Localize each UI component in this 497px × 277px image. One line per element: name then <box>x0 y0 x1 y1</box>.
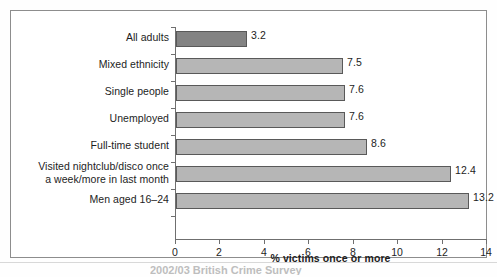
y-axis-tick <box>171 54 175 55</box>
category-label-all-adults: All adults <box>126 31 169 44</box>
chart-frame: All adults Mixed ethnicity Single people… <box>10 10 487 258</box>
source-caption: 2002/03 British Crime Survey <box>150 264 302 275</box>
category-label-single-people: Single people <box>105 85 169 98</box>
category-label-visited-nightclub: Visited nightclub/disco once a week/more… <box>38 160 169 185</box>
y-axis-tick <box>171 135 175 136</box>
x-axis-tick <box>353 240 354 244</box>
x-axis-line <box>175 239 487 240</box>
y-axis-tick <box>171 162 175 163</box>
bar-mixed-ethnicity[interactable] <box>176 58 343 74</box>
bar-unemployed[interactable] <box>176 112 345 128</box>
x-axis-tick <box>219 240 220 244</box>
screenshot-root: All adults Mixed ethnicity Single people… <box>0 0 497 277</box>
x-axis-tick <box>308 240 309 244</box>
plot-area: 3.2 7.5 7.6 7.6 8.6 12.4 <box>175 27 486 239</box>
x-axis-tick <box>442 240 443 244</box>
x-axis-tick <box>397 240 398 244</box>
y-axis-tick <box>171 189 175 190</box>
bar-value-men-aged-16-24: 13.2 <box>473 191 494 203</box>
bar-value-unemployed: 7.6 <box>349 110 364 122</box>
category-label-men-aged-16-24: Men aged 16–24 <box>89 193 169 206</box>
bar-value-full-time-student: 8.6 <box>371 137 386 149</box>
y-axis-tick <box>171 81 175 82</box>
bar-value-mixed-ethnicity: 7.5 <box>347 56 362 68</box>
x-axis-tick <box>264 240 265 244</box>
x-axis-tick <box>175 240 176 244</box>
bar-visited-nightclub[interactable] <box>176 166 451 182</box>
y-axis-tick <box>171 216 175 217</box>
bar-value-all-adults: 3.2 <box>251 29 266 41</box>
x-axis-tick <box>486 240 487 244</box>
bar-men-aged-16-24[interactable] <box>176 193 469 209</box>
bar-full-time-student[interactable] <box>176 139 367 155</box>
y-axis-tick <box>171 108 175 109</box>
bar-value-visited-nightclub: 12.4 <box>455 164 476 176</box>
category-axis-labels: All adults Mixed ethnicity Single people… <box>11 27 169 239</box>
y-axis-tick <box>171 27 175 28</box>
bar-all-adults[interactable] <box>176 31 247 47</box>
page-edge-line <box>0 262 497 263</box>
bar-value-single-people: 7.6 <box>349 83 364 95</box>
bar-single-people[interactable] <box>176 85 345 101</box>
category-label-unemployed: Unemployed <box>110 112 169 125</box>
category-label-mixed-ethnicity: Mixed ethnicity <box>99 58 169 71</box>
category-label-full-time-student: Full-time student <box>91 139 169 152</box>
